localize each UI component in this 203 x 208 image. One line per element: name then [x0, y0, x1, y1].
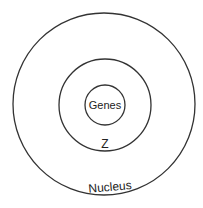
- nested-circles-diagram: Genes Z Nucleus: [0, 0, 203, 208]
- z-label: Z: [101, 137, 108, 151]
- genes-label: Genes: [89, 99, 122, 111]
- nucleus-label: Nucleus: [88, 178, 132, 196]
